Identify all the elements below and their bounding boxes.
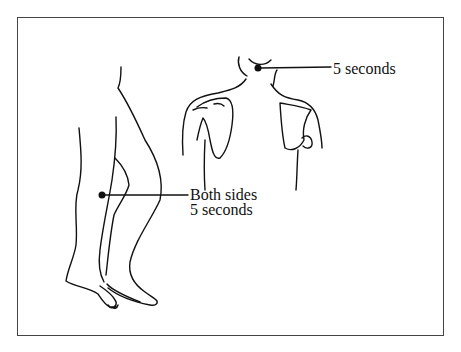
left-shoulder bbox=[182, 79, 246, 155]
neck-left bbox=[238, 57, 247, 76]
front-leg-thigh bbox=[108, 67, 161, 305]
knee-annotation-label: Both sides 5 seconds bbox=[190, 187, 257, 217]
illustration bbox=[0, 0, 461, 352]
knee-annotation-line-1: Both sides bbox=[190, 187, 257, 202]
right-shoulder bbox=[271, 84, 322, 148]
back-leg-outline bbox=[66, 128, 116, 307]
left-arm bbox=[204, 140, 205, 190]
neck-right bbox=[273, 70, 277, 86]
chin bbox=[249, 59, 271, 64]
upper-body-drawing bbox=[182, 57, 322, 190]
front-leg-shin bbox=[107, 284, 140, 302]
neck-annotation-line-1: 5 seconds bbox=[333, 61, 396, 76]
neck-annotation-label: 5 seconds bbox=[333, 61, 396, 76]
right-arm bbox=[296, 150, 298, 190]
legs-drawing bbox=[66, 67, 161, 308]
neck-leader-line bbox=[261, 67, 331, 68]
front-leg-knee bbox=[106, 158, 129, 275]
right-scapula bbox=[280, 103, 311, 150]
knee-annotation-line-2: 5 seconds bbox=[190, 202, 257, 217]
